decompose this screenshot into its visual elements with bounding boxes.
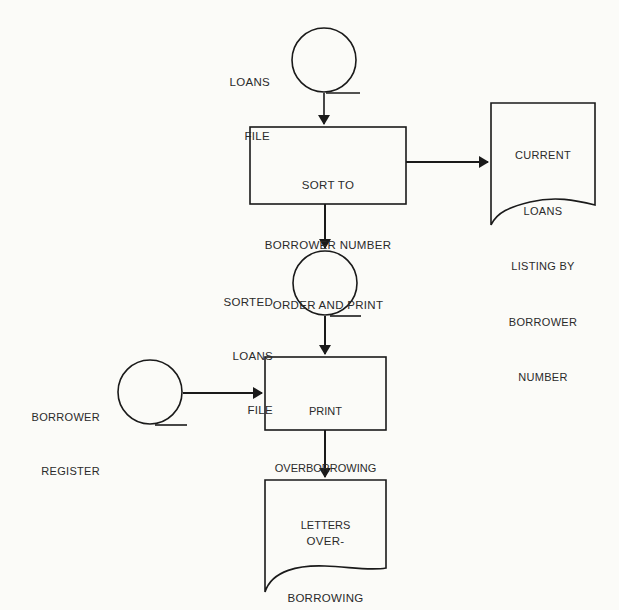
label-line: NUMBER (491, 368, 595, 387)
label-line: OVER- (265, 532, 386, 551)
label-line: BORROWER NUMBER (250, 235, 406, 255)
label-line: CURRENT (491, 146, 595, 165)
loans-file-tape-icon (292, 28, 360, 93)
label-line: LOANS (200, 73, 270, 91)
label-line: BORROWING (265, 589, 386, 608)
overborrowing-letters-label: OVER- BORROWING LETTERS (265, 494, 386, 610)
sorted-loans-file-label: SORTED LOANS FILE (200, 257, 273, 455)
label-line: LOANS (491, 202, 595, 221)
flowchart-canvas: LOANS FILE SORT TO BORROWER NUMBER ORDER… (0, 0, 619, 610)
label-line: LOANS (200, 347, 273, 365)
label-line: ORDER AND PRINT (250, 295, 406, 315)
label-line: PRINT (265, 402, 386, 421)
sort-process-label: SORT TO BORROWER NUMBER ORDER AND PRINT (250, 135, 406, 355)
borrower-register-tape-icon (118, 360, 187, 425)
label-line: SORTED (200, 293, 273, 311)
label-line: OVERBORROWING (265, 459, 386, 478)
label-line: BORROWER (491, 313, 595, 332)
label-line: LISTING BY (491, 257, 595, 276)
current-loans-listing-label: CURRENT LOANS LISTING BY BORROWER NUMBER (491, 109, 595, 424)
label-line: REGISTER (20, 462, 100, 480)
borrower-register-label: BORROWER REGISTER (20, 372, 100, 516)
label-line: SORT TO (250, 175, 406, 195)
label-line: FILE (200, 401, 273, 419)
label-line: BORROWER (20, 408, 100, 426)
